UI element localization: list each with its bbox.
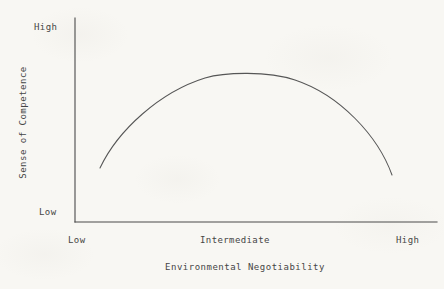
x-axis-tick-low: Low (68, 236, 85, 245)
figure-container: High Low Low Intermediate High Sense of … (0, 0, 444, 289)
y-axis-tick-low: Low (39, 208, 56, 217)
data-curve-sense-of-competence (100, 73, 392, 175)
x-axis-tick-intermediate: Intermediate (200, 236, 270, 245)
x-axis-title: Environmental Negotiability (75, 263, 415, 272)
plot-area (0, 0, 444, 289)
x-axis-tick-high: High (396, 236, 419, 245)
y-axis-tick-high: High (34, 23, 57, 32)
y-axis-title: Sense of Competence (19, 58, 28, 188)
